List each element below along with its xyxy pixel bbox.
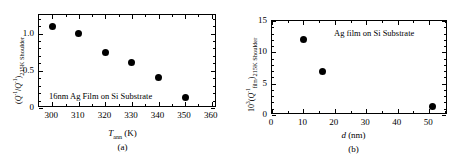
y-tick-label: 0.5 — [12, 65, 34, 75]
y-tick — [272, 52, 276, 53]
y-tick — [442, 21, 446, 22]
x-tick — [398, 109, 399, 113]
x-tick — [185, 102, 186, 106]
x-tick-label: 310 — [71, 110, 85, 120]
y-tick — [211, 108, 215, 109]
y-tick — [272, 115, 276, 116]
y-tick-label: 0 — [12, 102, 34, 112]
annotation-a: 16nm Ag Film on Si Substrate — [49, 91, 152, 101]
x-axis-title-b: d (nm) — [237, 130, 466, 140]
data-point — [128, 59, 135, 66]
y-tick — [442, 52, 446, 53]
x-tick — [159, 15, 160, 19]
y-tick — [444, 90, 446, 91]
x-tick — [92, 15, 93, 17]
x-tick — [288, 21, 289, 23]
y-tick — [442, 115, 446, 116]
y-tick — [444, 77, 446, 78]
x-tick — [445, 111, 446, 113]
y-tick — [213, 86, 215, 87]
y-tick — [272, 102, 274, 103]
x-axis-subscript-a: ann — [113, 134, 122, 140]
y-tick — [272, 21, 276, 22]
x-tick — [185, 15, 186, 19]
x-tick — [413, 21, 414, 23]
x-tick — [335, 109, 336, 113]
x-tick — [132, 102, 133, 106]
y-tick — [272, 59, 274, 60]
data-point — [429, 103, 436, 110]
y-tick-label: 0 — [245, 109, 267, 119]
y-tick — [39, 56, 41, 57]
y-tick — [39, 71, 43, 72]
x-tick — [159, 102, 160, 106]
y-tick — [39, 41, 41, 42]
data-point — [155, 74, 162, 81]
y-tick — [444, 109, 446, 110]
x-tick — [413, 111, 414, 113]
y-tick — [39, 19, 41, 20]
y-tick — [213, 93, 215, 94]
x-tick-label: 360 — [204, 110, 218, 120]
y-tick — [272, 109, 274, 110]
y-tick — [272, 71, 274, 72]
y-tick — [444, 59, 446, 60]
y-tick — [272, 27, 274, 28]
x-tick-label: 300 — [45, 110, 59, 120]
figure-container: 16nm Ag Film on Si Substrate Tann (K) (Q… — [0, 0, 466, 160]
x-tick — [105, 102, 106, 106]
y-tick-label: 10 — [245, 46, 267, 56]
x-tick — [429, 21, 430, 25]
x-tick — [105, 15, 106, 19]
x-tick — [132, 15, 133, 19]
x-tick — [212, 102, 213, 106]
data-point — [300, 36, 307, 43]
y-tick — [442, 84, 446, 85]
x-tick — [172, 104, 173, 106]
x-tick-label: 320 — [98, 110, 112, 120]
y-tick — [272, 96, 274, 97]
x-tick — [288, 111, 289, 113]
x-axis-title-a: Tann (K) — [6, 128, 239, 138]
panel-label-a: (a) — [6, 142, 239, 152]
x-tick — [382, 111, 383, 113]
y-tick — [444, 71, 446, 72]
y-tick — [272, 90, 274, 91]
x-tick — [198, 104, 199, 106]
x-tick — [351, 111, 352, 113]
y-tick-label: 5 — [245, 78, 267, 88]
y-tick — [213, 56, 215, 57]
x-tick — [66, 104, 67, 106]
x-tick-label: 350 — [177, 110, 191, 120]
y-tick — [39, 93, 41, 94]
x-tick — [319, 21, 320, 23]
data-point — [319, 68, 326, 75]
x-tick — [52, 15, 53, 19]
y-tick — [211, 34, 215, 35]
y-tick — [39, 34, 43, 35]
plot-area-a: 16nm Ag Film on Si Substrate — [38, 14, 216, 107]
x-tick — [382, 21, 383, 23]
annotation-b: Ag film on Si Substrate — [334, 28, 414, 38]
y-tick — [272, 77, 274, 78]
y-tick — [444, 34, 446, 35]
y-tick — [272, 84, 276, 85]
y-tick — [213, 63, 215, 64]
y-tick — [444, 102, 446, 103]
x-axis-unit-a: (K) — [122, 128, 137, 138]
y-tick — [213, 48, 215, 49]
y-tick — [213, 26, 215, 27]
x-tick — [198, 15, 199, 17]
x-tick — [119, 15, 120, 17]
y-tick — [213, 41, 215, 42]
y-tick — [39, 86, 41, 87]
data-point — [102, 49, 109, 56]
y-tick — [39, 63, 41, 64]
y-tick — [444, 46, 446, 47]
y-tick — [213, 101, 215, 102]
plot-area-b: Ag film on Si Substrate — [271, 20, 447, 114]
y-tick — [39, 101, 41, 102]
data-point — [182, 94, 189, 101]
x-tick — [172, 15, 173, 17]
x-tick-label: 20 — [329, 117, 338, 127]
